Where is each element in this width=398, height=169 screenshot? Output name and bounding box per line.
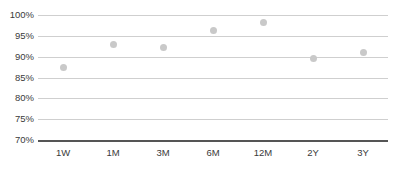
data-point — [210, 27, 217, 34]
gridline — [38, 78, 388, 79]
y-axis-tick-label: 70% — [15, 135, 34, 145]
y-axis-tick-label: 85% — [15, 73, 34, 83]
x-axis-tick-label: 2Y — [307, 148, 319, 158]
data-point — [310, 55, 317, 62]
gridline — [38, 36, 388, 37]
data-point — [110, 41, 117, 48]
data-point — [60, 64, 67, 71]
y-axis: 100%95%90%85%80%75%70% — [0, 0, 34, 169]
gridline — [38, 57, 388, 58]
x-axis-tick-label: 6M — [206, 148, 219, 158]
gridline — [38, 98, 388, 99]
gridline — [38, 119, 388, 120]
y-axis-tick-label: 90% — [15, 52, 34, 62]
data-point — [260, 19, 267, 26]
x-axis-tick-label: 3M — [156, 148, 169, 158]
y-axis-tick-label: 75% — [15, 114, 34, 124]
plot-area — [38, 15, 388, 140]
y-axis-tick-label: 100% — [10, 10, 34, 20]
data-point — [160, 44, 167, 51]
axis-baseline — [38, 140, 388, 142]
x-axis-tick-label: 12M — [254, 148, 272, 158]
scatter-chart: 100%95%90%85%80%75%70% 1W1M3M6M12M2Y3Y — [0, 0, 398, 169]
y-axis-tick-label: 95% — [15, 31, 34, 41]
x-axis-tick-label: 1W — [56, 148, 70, 158]
x-axis-tick-label: 1M — [106, 148, 119, 158]
x-axis-tick-label: 3Y — [357, 148, 369, 158]
gridline — [38, 15, 388, 16]
x-axis: 1W1M3M6M12M2Y3Y — [38, 148, 388, 164]
data-point — [360, 49, 367, 56]
y-axis-tick-label: 80% — [15, 93, 34, 103]
